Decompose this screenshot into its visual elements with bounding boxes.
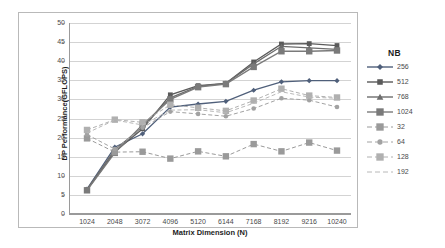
- legend: NB 25651276810243264128192: [366, 48, 442, 179]
- data-point: [140, 125, 145, 130]
- series-line: [87, 44, 337, 190]
- data-point: [279, 79, 284, 84]
- y-tick-mark: [62, 119, 65, 120]
- series-64: [85, 96, 340, 151]
- series-line: [87, 81, 337, 189]
- data-point: [250, 64, 256, 70]
- legend-swatch: [366, 91, 394, 103]
- data-point: [335, 105, 340, 110]
- data-point: [251, 88, 256, 93]
- series-line: [87, 92, 337, 133]
- data-point: [139, 149, 145, 155]
- data-point: [223, 99, 228, 104]
- data-point: [250, 141, 256, 147]
- legend-label: 512: [394, 78, 409, 85]
- legend-label: 192: [394, 168, 409, 175]
- chart-frame: DP Performance(GFLOPS) 05101520253035404…: [18, 12, 358, 228]
- data-point: [279, 96, 284, 101]
- legend-marker-square-large-icon: [376, 108, 383, 115]
- y-tick-mark: [62, 23, 65, 24]
- y-tick-mark: [62, 176, 65, 177]
- legend-swatch: [366, 106, 394, 118]
- plot-area: [69, 23, 351, 214]
- data-point: [278, 86, 284, 92]
- series-512: [85, 41, 340, 192]
- legend-swatch: [366, 61, 394, 73]
- legend-swatch: [366, 166, 394, 178]
- data-point: [112, 116, 118, 122]
- data-point: [196, 112, 201, 117]
- series-32: [84, 135, 340, 162]
- data-point: [307, 78, 312, 83]
- legend-title: NB: [388, 48, 442, 58]
- series-256: [84, 78, 339, 192]
- data-point: [334, 78, 339, 83]
- data-point: [167, 102, 173, 108]
- data-point: [278, 48, 284, 54]
- legend-label: 768: [394, 93, 409, 100]
- data-point: [334, 147, 340, 153]
- y-tick-mark: [62, 99, 65, 100]
- legend-label: 128: [394, 153, 409, 160]
- y-tick-mark: [62, 157, 65, 158]
- data-point: [195, 84, 201, 90]
- series-128: [84, 86, 340, 134]
- data-point: [224, 114, 229, 119]
- data-point: [195, 148, 201, 154]
- data-point: [251, 106, 256, 111]
- y-tick-mark: [62, 42, 65, 43]
- data-point: [112, 147, 117, 152]
- data-point: [223, 153, 229, 159]
- x-axis-title: Matrix Dimension (N): [69, 228, 351, 237]
- series-line: [87, 46, 337, 189]
- legend-marker-square-large-icon: [376, 153, 383, 160]
- legend-item-192[interactable]: 192: [366, 164, 442, 179]
- data-point: [84, 187, 90, 193]
- chart-screenshot: DP Performance(GFLOPS) 05101520253035404…: [0, 0, 445, 248]
- data-point: [306, 92, 312, 98]
- data-point: [334, 94, 340, 100]
- legend-swatch: [366, 121, 394, 133]
- legend-item-32[interactable]: 32: [366, 119, 442, 134]
- data-point: [306, 48, 312, 54]
- y-tick-mark: [62, 61, 65, 62]
- y-tick-mark: [62, 195, 65, 196]
- legend-item-256[interactable]: 256: [366, 59, 442, 74]
- y-tick-mark: [62, 214, 65, 215]
- data-point: [167, 155, 173, 161]
- legend-swatch: [366, 76, 394, 88]
- legend-label: 1024: [394, 108, 413, 115]
- data-point: [306, 139, 312, 145]
- legend-marker-square-large-icon: [376, 123, 383, 130]
- legend-label: 256: [394, 63, 409, 70]
- legend-item-512[interactable]: 512: [366, 74, 442, 89]
- legend-marker-diamond-icon: [377, 64, 383, 70]
- x-tick-label: 10240: [320, 218, 354, 226]
- legend-marker-square-icon: [377, 79, 383, 85]
- series-layer: [69, 23, 351, 214]
- legend-item-64[interactable]: 64: [366, 134, 442, 149]
- y-tick-mark: [62, 138, 65, 139]
- y-tick-mark: [62, 80, 65, 81]
- legend-item-768[interactable]: 768: [366, 89, 442, 104]
- legend-label: 64: [394, 138, 405, 145]
- legend-swatch: [366, 136, 394, 148]
- series-1024: [84, 47, 340, 193]
- legend-item-128[interactable]: 128: [366, 149, 442, 164]
- legend-label: 32: [394, 123, 405, 130]
- legend-swatch: [366, 151, 394, 163]
- data-point: [334, 47, 340, 53]
- y-axis-ticks: 05101520253035404550: [41, 23, 65, 214]
- series-192: [87, 92, 337, 133]
- series-768: [84, 43, 340, 192]
- gridline: [69, 214, 351, 215]
- data-point: [278, 148, 284, 154]
- legend-marker-circle-icon: [377, 139, 382, 144]
- data-point: [223, 81, 229, 87]
- legend-entries: 25651276810243264128192: [366, 59, 442, 179]
- x-axis-ticks: 1024204830724096512061447168819292161024…: [69, 218, 351, 228]
- legend-item-1024[interactable]: 1024: [366, 104, 442, 119]
